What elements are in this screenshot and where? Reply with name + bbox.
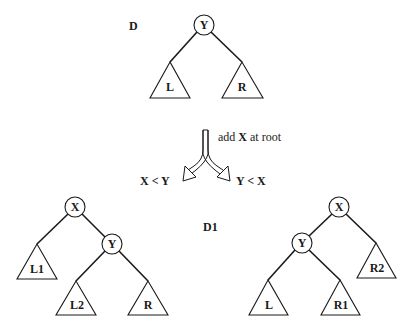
edge	[211, 32, 242, 62]
edge	[268, 250, 295, 280]
subtree-label: L1	[30, 262, 44, 276]
subtree-label: R	[238, 80, 247, 94]
arrowhead-left-icon	[183, 166, 196, 181]
node-label: Y	[200, 18, 209, 32]
edge	[82, 214, 105, 237]
subtree-label: L	[265, 298, 273, 312]
edge	[37, 214, 68, 244]
top-tree: D L R Y	[129, 15, 263, 98]
node-label: X	[335, 200, 344, 214]
subtree-label: L2	[70, 298, 84, 312]
edge	[346, 214, 376, 243]
edge	[309, 250, 340, 280]
left-result-tree: L1 L2 R X Y	[17, 197, 168, 315]
bst-root-insertion-diagram: D L R Y add X at root X < Y Y < X D1 L1 …	[0, 0, 414, 331]
condition-left: X < Y	[140, 174, 170, 188]
subtree-label: R	[144, 298, 153, 312]
node-label: Y	[298, 236, 307, 250]
result-label-d1: D1	[203, 220, 218, 234]
condition-right: Y < X	[236, 174, 266, 188]
edge	[76, 251, 105, 281]
node-label: Y	[108, 237, 117, 251]
subtree-label: R2	[370, 261, 385, 275]
node-label: X	[71, 200, 80, 214]
subtree-label: L	[166, 80, 174, 94]
subtree-label: R1	[334, 298, 349, 312]
operation-text: add X at root	[218, 130, 282, 144]
edge	[119, 251, 148, 281]
edge	[170, 32, 197, 62]
edge	[309, 214, 332, 236]
arrow-left-inner	[191, 130, 208, 174]
right-result-tree: R2 L R1 X Y	[249, 197, 396, 315]
tree-label-d: D	[129, 19, 138, 33]
arrow-left-outer	[188, 130, 203, 170]
